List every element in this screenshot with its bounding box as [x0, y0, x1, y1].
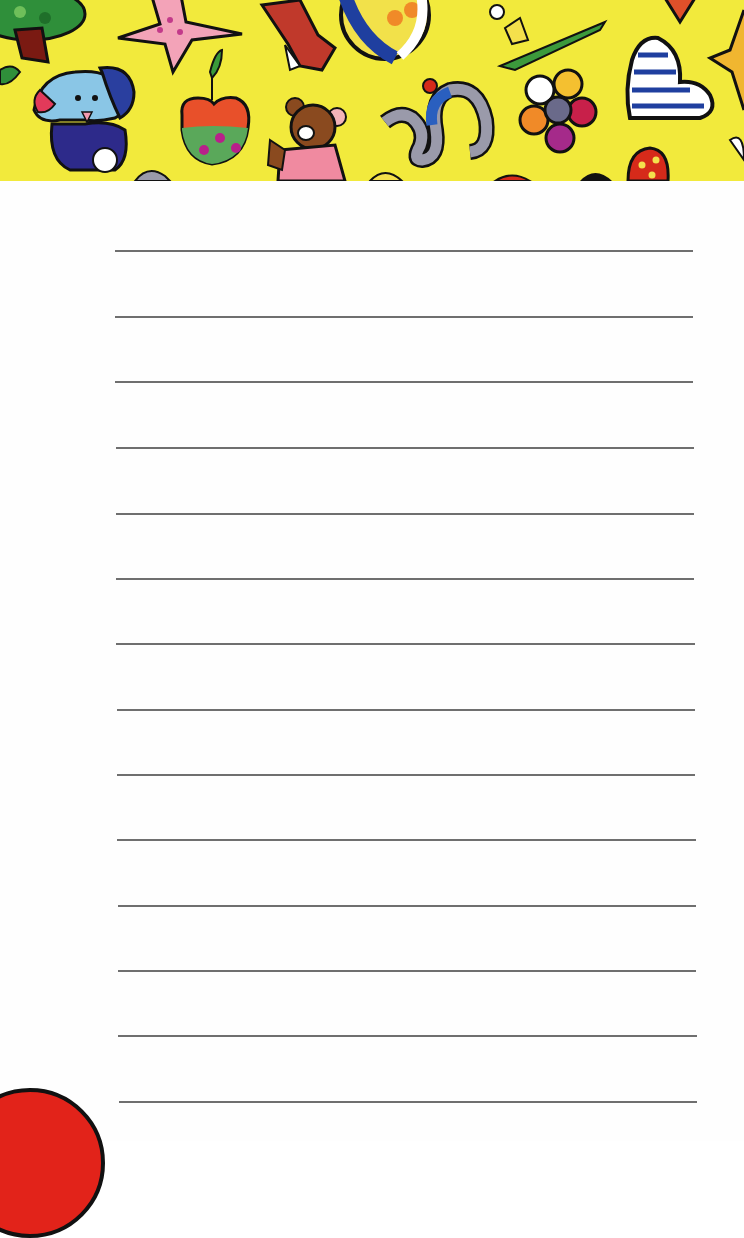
shape-partial: [730, 138, 744, 161]
leaf-icon: [0, 66, 20, 84]
pop-art-pattern: [0, 0, 744, 181]
snake-icon: [385, 79, 487, 160]
star-icon: [710, 10, 744, 110]
ball-icon: [341, 0, 429, 59]
ruled-line: [115, 381, 693, 383]
ruled-line: [116, 643, 695, 645]
shape-partial: [580, 173, 612, 181]
ruled-line: [119, 1101, 697, 1103]
ruled-line: [117, 709, 695, 711]
ruled-line: [118, 970, 696, 972]
striped-heart-icon: [627, 38, 712, 118]
lined-page: [0, 181, 744, 1141]
teddy-bear-icon: [268, 98, 346, 181]
ruled-line: [118, 1035, 697, 1037]
ruled-line: [116, 578, 694, 580]
ruled-line: [118, 905, 696, 907]
ruled-line: [116, 513, 694, 515]
ruled-line: [117, 839, 696, 841]
ruled-line: [116, 447, 694, 449]
tree-icon: [0, 0, 85, 62]
pattern-header: [0, 0, 744, 181]
star-icon: [118, 0, 242, 72]
ruled-line: [115, 250, 693, 252]
heart-icon: [660, 0, 700, 22]
ruled-line: [117, 774, 695, 776]
shape-partial: [135, 171, 170, 181]
bird-icon: [262, 0, 335, 70]
shape-partial: [370, 173, 402, 181]
polka-dot-heart-icon: [628, 148, 668, 181]
dog-icon: [34, 68, 134, 173]
crocodile-icon: [490, 5, 605, 70]
ruled-line: [115, 316, 693, 318]
apple-icon: [182, 50, 249, 164]
flower-icon: [520, 70, 596, 152]
